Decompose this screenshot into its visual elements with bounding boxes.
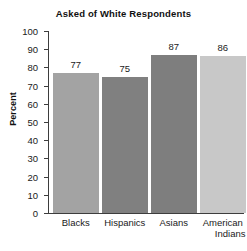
y-axis-tick-label: 40 xyxy=(27,135,38,146)
y-axis-tick-label: 20 xyxy=(27,171,38,182)
y-axis-tick: 80 xyxy=(44,67,48,68)
bar-chart: Asked of White Respondents Percent 01020… xyxy=(0,0,247,251)
y-axis-tick-label: 10 xyxy=(27,189,38,200)
x-axis-tick-label: Asians xyxy=(151,217,197,228)
bar: 75 xyxy=(102,77,148,214)
x-axis-tick-label: AmericanIndians xyxy=(200,217,246,239)
y-axis-tick-label: 70 xyxy=(27,80,38,91)
plot-area: 0102030405060708090100 77Blacks75Hispani… xyxy=(48,31,244,213)
y-axis-tick-label: 0 xyxy=(33,208,38,219)
y-axis-tick: 50 xyxy=(44,122,48,123)
chart-title: Asked of White Respondents xyxy=(0,8,247,19)
y-axis-tick: 0 xyxy=(44,213,48,214)
y-axis-tick: 100 xyxy=(44,31,48,32)
y-axis-tick: 20 xyxy=(44,177,48,178)
x-axis-tick-label: Blacks xyxy=(53,217,99,228)
y-axis-tick-label: 90 xyxy=(27,44,38,55)
y-axis-tick-label: 50 xyxy=(27,117,38,128)
bar-value-label: 77 xyxy=(53,59,99,70)
y-axis-tick: 30 xyxy=(44,158,48,159)
y-axis-tick-label: 60 xyxy=(27,98,38,109)
x-axis-tick-label: Hispanics xyxy=(102,217,148,228)
bar-value-label: 75 xyxy=(102,63,148,74)
y-axis-tick-label: 100 xyxy=(22,26,38,37)
bar: 77 xyxy=(53,73,99,213)
bar-value-label: 87 xyxy=(151,41,197,52)
bar-value-label: 86 xyxy=(200,42,246,53)
y-axis-tick: 60 xyxy=(44,104,48,105)
y-axis-tick: 70 xyxy=(44,86,48,87)
y-axis-tick: 10 xyxy=(44,195,48,196)
bar: 86 xyxy=(200,56,246,213)
y-axis-label: Percent xyxy=(8,79,18,139)
x-axis-line xyxy=(48,213,244,214)
y-axis-tick: 90 xyxy=(44,49,48,50)
y-axis-line xyxy=(48,31,49,214)
y-axis-tick: 40 xyxy=(44,140,48,141)
bar: 87 xyxy=(151,55,197,213)
y-axis-tick-label: 80 xyxy=(27,62,38,73)
y-axis-tick-label: 30 xyxy=(27,153,38,164)
